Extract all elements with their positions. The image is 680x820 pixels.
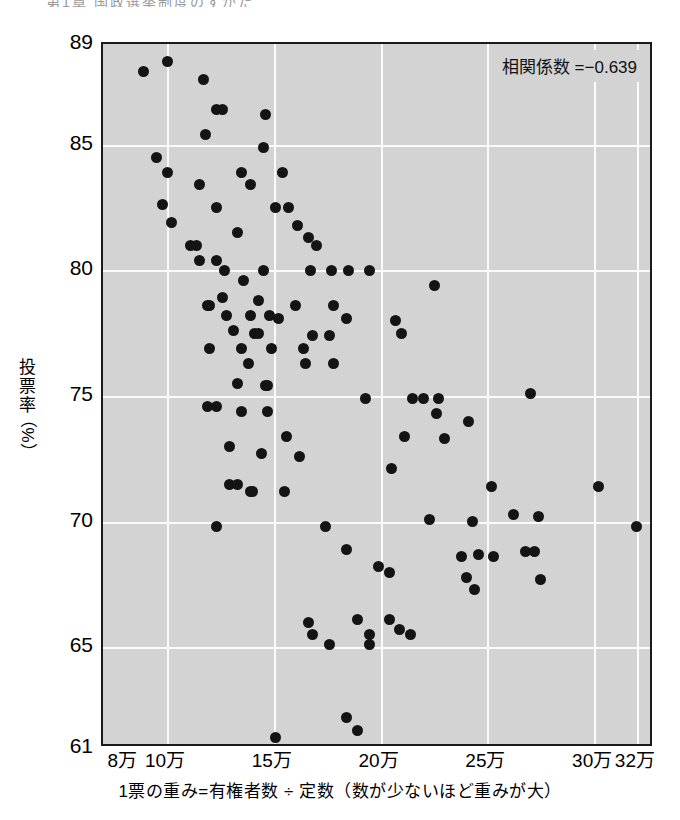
scatter-point (243, 358, 254, 369)
scatter-point (253, 328, 264, 339)
scatter-point (262, 380, 273, 391)
scatter-point (270, 732, 281, 743)
y-axis-title-char-1: 投 (14, 358, 40, 377)
gridline-horizontal (103, 647, 650, 649)
scatter-point (162, 56, 173, 67)
scatter-point (236, 406, 247, 417)
scatter-point (461, 572, 472, 583)
scatter-point (352, 725, 363, 736)
x-tick-label: 32万 (600, 750, 670, 772)
y-tick-label: 80 (53, 257, 93, 278)
scatter-point (525, 388, 536, 399)
scatter-point (277, 167, 288, 178)
scatter-point (341, 313, 352, 324)
gridline-vertical (167, 44, 169, 744)
scatter-point (198, 74, 209, 85)
gridline-vertical (487, 44, 489, 744)
scatter-point (279, 486, 290, 497)
scatter-point (253, 295, 264, 306)
scatter-point (300, 358, 311, 369)
scatter-point (292, 220, 303, 231)
y-axis-unit: （%） (19, 411, 36, 437)
scatter-point (508, 509, 519, 520)
scatter-chart-figure: 相関係数 =−0.639 89858075706561 投 票 率 （%） 8万… (0, 0, 680, 820)
scatter-point (405, 629, 416, 640)
y-tick-label: 65 (53, 634, 93, 655)
scatter-point (283, 202, 294, 213)
scatter-point (217, 292, 228, 303)
scatter-point (418, 393, 429, 404)
x-tick-label: 20万 (344, 750, 414, 772)
scatter-point (217, 104, 228, 115)
gridline-vertical (274, 44, 276, 744)
scatter-point (320, 521, 331, 532)
scatter-point (273, 313, 284, 324)
gridline-vertical (594, 44, 596, 744)
scatter-point (151, 152, 162, 163)
scatter-point (529, 546, 540, 557)
scatter-point (384, 614, 395, 625)
gridline-horizontal (103, 396, 650, 398)
scatter-point (224, 441, 235, 452)
scatter-point (258, 265, 269, 276)
scatter-point (386, 463, 397, 474)
scatter-point (266, 343, 277, 354)
scatter-point (305, 265, 316, 276)
scatter-point (467, 516, 478, 527)
scatter-point (232, 378, 243, 389)
scatter-point (307, 330, 318, 341)
scatter-point (262, 406, 273, 417)
x-tick-label: 15万 (237, 750, 307, 772)
x-tick-label: 25万 (450, 750, 520, 772)
gridline-horizontal (103, 145, 650, 147)
scatter-point (390, 315, 401, 326)
scatter-point (247, 486, 258, 497)
scatter-point (298, 343, 309, 354)
scatter-point (533, 511, 544, 522)
scatter-point (399, 431, 410, 442)
scatter-point (228, 325, 239, 336)
scatter-point (469, 584, 480, 595)
scatter-point (360, 393, 371, 404)
scatter-point (245, 310, 256, 321)
x-axis-title: 1票の重み=有権者数 ÷ 定数（数が少ないほど重みが大） (0, 782, 680, 802)
scatter-point (211, 255, 222, 266)
scatter-point (364, 265, 375, 276)
scatter-point (324, 330, 335, 341)
scatter-point (328, 300, 339, 311)
scatter-point (473, 549, 484, 560)
scatter-point (486, 481, 497, 492)
scatter-point (219, 265, 230, 276)
scatter-point (138, 66, 149, 77)
gridline-horizontal (103, 522, 650, 524)
scatter-point (433, 393, 444, 404)
scatter-point (204, 300, 215, 311)
y-tick-label: 89 (53, 31, 93, 52)
scatter-point (488, 551, 499, 562)
scatter-point (270, 202, 281, 213)
scatter-point (341, 544, 352, 555)
scatter-point (535, 574, 546, 585)
x-tick-label: 10万 (130, 750, 200, 772)
scatter-point (341, 712, 352, 723)
scatter-point (200, 129, 211, 140)
scatter-point (294, 451, 305, 462)
scatter-point (343, 265, 354, 276)
scatter-point (439, 433, 450, 444)
scatter-point (463, 416, 474, 427)
scatter-point (326, 265, 337, 276)
scatter-point (311, 240, 322, 251)
y-axis-title: 投 票 率 （%） (14, 358, 40, 432)
scatter-point (204, 343, 215, 354)
scatter-point (232, 227, 243, 238)
scatter-point (194, 179, 205, 190)
scatter-point (593, 481, 604, 492)
scatter-point (166, 217, 177, 228)
scatter-point (431, 408, 442, 419)
scatter-point (238, 275, 249, 286)
y-tick-label: 70 (53, 509, 93, 530)
x-axis-ticks: 8万10万15万20万25万30万32万 (101, 750, 652, 776)
scatter-point (236, 343, 247, 354)
scatter-point (394, 624, 405, 635)
scatter-point (352, 614, 363, 625)
